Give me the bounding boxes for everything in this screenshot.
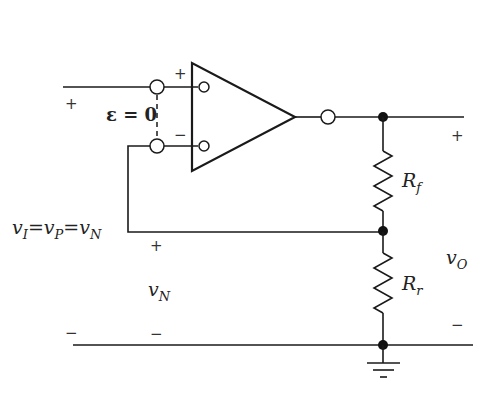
output-open-circle	[321, 110, 335, 124]
plus-node-open-circle	[150, 80, 164, 94]
rf-resistor	[374, 151, 392, 211]
minus-node-open-circle	[150, 139, 164, 153]
circuit-diagram: + − + − ε = 0 vI=vP=vN + vN − Rf Rr + vO…	[0, 0, 504, 394]
opamp-plus-mark: +	[174, 65, 187, 83]
vn-label: vN	[148, 278, 171, 304]
input-plus-mark: +	[65, 95, 78, 113]
opamp-minus-input-circle	[199, 141, 209, 151]
opamp-triangle	[192, 63, 295, 171]
opamp-plus-input-circle	[199, 82, 209, 92]
input-relation-label: vI=vP=vN	[12, 216, 102, 242]
input-minus-mark: −	[65, 324, 78, 342]
rr-resistor	[374, 253, 392, 313]
ground-icon	[367, 345, 400, 377]
feedback-wire	[128, 146, 383, 232]
rf-label: Rf	[401, 169, 423, 195]
vo-minus-mark: −	[451, 316, 464, 334]
opamp-minus-mark: −	[174, 126, 187, 144]
rr-label: Rr	[401, 272, 423, 298]
vo-plus-mark: +	[451, 127, 464, 145]
vn-plus-mark: +	[150, 237, 163, 255]
vn-minus-mark: −	[150, 325, 163, 343]
epsilon-label: ε = 0	[106, 104, 157, 125]
vo-label: vO	[446, 246, 468, 272]
